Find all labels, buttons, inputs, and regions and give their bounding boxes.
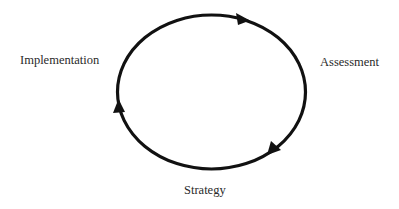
cycle-ellipse — [118, 15, 306, 169]
arrowhead-icon-left — [113, 99, 125, 113]
node-label-strategy: Strategy — [184, 184, 226, 197]
arrowhead-icon-bottom-right — [267, 141, 281, 155]
arrowhead-icon-top — [236, 13, 250, 25]
node-label-implementation: Implementation — [20, 54, 99, 67]
node-label-assessment: Assessment — [320, 56, 379, 69]
cycle-diagram — [0, 0, 399, 209]
